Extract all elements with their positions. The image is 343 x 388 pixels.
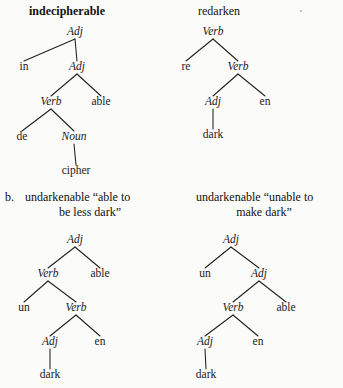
tree-branch-root-to-adj-2 bbox=[231, 247, 259, 268]
tree-branch-adj-2-to-verb bbox=[233, 281, 259, 302]
page-canvas: indecipherable redarken b. undarkenable … bbox=[0, 0, 343, 388]
tree-branch-adj-3-to-stem-dark bbox=[205, 349, 206, 369]
tree-branch-adj-2-to-suffix-able bbox=[259, 281, 286, 302]
tree-node-root: Adj bbox=[222, 233, 239, 246]
tree-branch-verb-to-adj-3 bbox=[205, 315, 233, 336]
tree-node-prefix-un: un bbox=[199, 267, 211, 279]
tree-node-adj-3: Adj bbox=[196, 335, 213, 348]
tree-node-adj-2: Adj bbox=[250, 267, 267, 280]
tree-diagram-undarkenable-unable: AdjunAdjVerbableAdjendark bbox=[0, 0, 343, 388]
tree-node-suffix-able: able bbox=[276, 301, 295, 313]
tree-node-suffix-en: en bbox=[253, 335, 264, 347]
tree-branch-root-to-prefix-un bbox=[205, 247, 231, 268]
tree-node-verb: Verb bbox=[222, 301, 243, 313]
tree-node-stem-dark: dark bbox=[196, 368, 217, 380]
tree-branch-verb-to-suffix-en bbox=[233, 315, 258, 336]
